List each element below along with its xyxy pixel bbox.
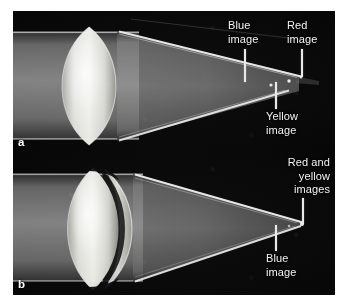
panel-letter-a: a [18, 136, 24, 148]
leader-line-red-and-yellow-images-b [302, 198, 304, 224]
annotation-red-and-yellow-images-b: Red and yellow images [248, 156, 330, 197]
chromatic-aberration-figure: Blue image Red image Yellow image a [0, 0, 347, 306]
annotation-red-image-a: Red image [287, 19, 317, 46]
panel-b-achromatic-doublet: Red and yellow images Blue image b [13, 152, 335, 295]
annotation-yellow-image-a: Yellow image [266, 110, 298, 137]
leader-line-blue-image-a [244, 49, 246, 82]
panel-a-simple-lens: Blue image Red image Yellow image a [13, 11, 335, 152]
annotation-blue-image-a: Blue image [228, 19, 258, 46]
leader-line-yellow-image-a [275, 82, 277, 109]
leader-line-red-image-a [301, 49, 303, 77]
panel-letter-b: b [18, 278, 25, 290]
annotation-blue-image-b: Blue image [266, 252, 296, 279]
leader-line-blue-image-b [275, 225, 277, 251]
